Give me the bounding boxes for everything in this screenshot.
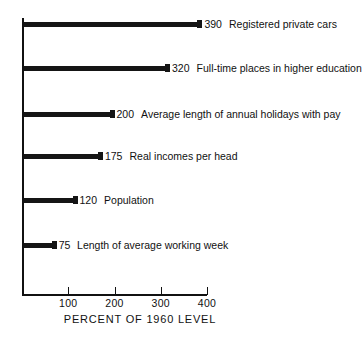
bar-category-label: Population <box>104 194 154 207</box>
bar-end-cap <box>165 64 170 72</box>
bar-end-cap <box>73 196 78 204</box>
x-tick-mark <box>161 287 162 295</box>
x-tick-label: 300 <box>152 297 170 309</box>
bar-value-label: 120 <box>80 194 98 207</box>
bar-category-label: Full-time places in higher education <box>197 62 362 75</box>
bar-value-label: 320 <box>172 62 190 75</box>
bar-end-cap <box>98 152 103 160</box>
bar-shape <box>22 66 170 71</box>
bar-end-cap <box>110 110 115 118</box>
bar-category-label: Real incomes per head <box>130 150 238 163</box>
bar-shape <box>22 22 202 27</box>
x-tick-label: 400 <box>198 297 216 309</box>
x-axis-title: PERCENT OF 1960 LEVEL <box>0 313 280 325</box>
bar-end-cap <box>52 241 57 249</box>
y-axis-line <box>22 18 24 296</box>
x-tick-label: 100 <box>59 297 77 309</box>
bar-shape <box>22 154 103 159</box>
x-tick-mark <box>207 287 208 295</box>
bar-value-label: 200 <box>117 108 135 121</box>
bar-category-label: Registered private cars <box>229 18 337 31</box>
bar-value-label: 75 <box>59 239 71 252</box>
bar-value-label: 390 <box>204 18 222 31</box>
bar-shape <box>22 198 78 203</box>
bar-value-label: 175 <box>105 150 123 163</box>
bar-category-label: Length of average working week <box>77 239 228 252</box>
bar-category-label: Average length of annual holidays with p… <box>141 108 340 121</box>
x-tick-mark <box>115 287 116 295</box>
x-tick-label: 200 <box>105 297 123 309</box>
bar-shape <box>22 112 115 117</box>
bar-end-cap <box>197 20 202 28</box>
x-tick-mark <box>68 287 69 295</box>
